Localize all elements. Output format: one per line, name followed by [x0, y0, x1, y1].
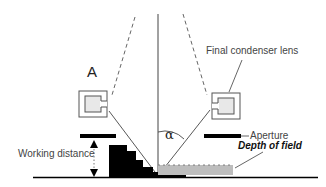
- right-beam-dashed-line: [183, 14, 207, 95]
- right-lens-icon: [212, 93, 240, 119]
- right-aperture-bar: [204, 134, 241, 138]
- depth-of-field-pointer: [235, 152, 263, 168]
- sem-depth-of-field-diagram: A Final condenser lens Aperture Depth of…: [0, 0, 326, 187]
- label-depth-of-field: Depth of field: [238, 140, 302, 151]
- depth-of-field-region: [158, 165, 233, 175]
- left-beam-dashed-line: [112, 17, 135, 95]
- label-angle-alpha: α: [165, 127, 174, 142]
- label-final-condenser-lens: Final condenser lens: [206, 45, 298, 56]
- label-lens-set-a: A: [87, 63, 97, 80]
- left-aperture-bar: [80, 134, 116, 138]
- left-lens-icon: [79, 91, 107, 117]
- label-working-distance: Working distance: [18, 148, 95, 159]
- final-condenser-lens-pointer: [229, 60, 242, 92]
